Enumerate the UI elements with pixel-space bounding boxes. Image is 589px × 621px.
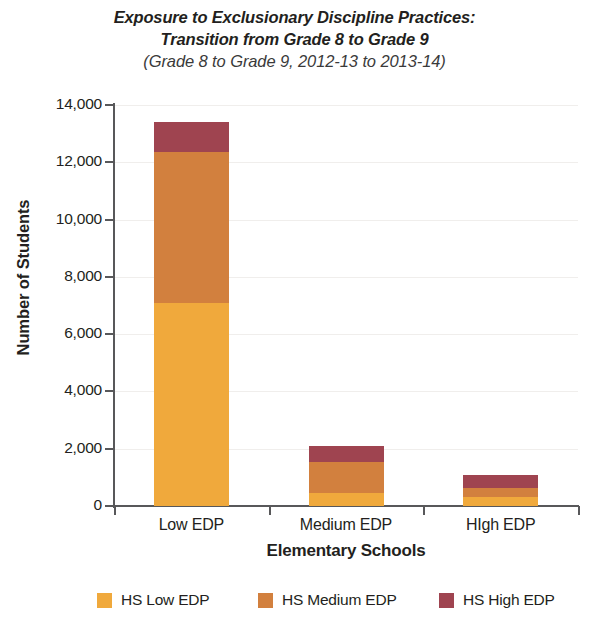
bar-segment[interactable] [463, 497, 538, 506]
legend-swatch-icon [439, 593, 454, 608]
x-axis-tick [269, 506, 271, 515]
y-axis-tick-label: 10,000 [28, 210, 102, 228]
legend-label: HS High EDP [463, 591, 555, 609]
x-axis-category-label: Medium EDP [269, 516, 424, 534]
y-axis-tick [105, 161, 114, 163]
legend-label: HS Medium EDP [282, 591, 397, 609]
y-axis-tick-label: 4,000 [28, 381, 102, 399]
bar-segment[interactable] [154, 303, 229, 506]
y-axis-tick-label: 2,000 [28, 439, 102, 457]
legend-item[interactable]: HS High EDP [439, 588, 555, 612]
bar-segment[interactable] [309, 446, 384, 462]
y-axis-tick-label: 14,000 [28, 95, 102, 113]
bar-segment[interactable] [463, 475, 538, 488]
chart-legend: HS Low EDPHS Medium EDPHS High EDP [0, 588, 589, 612]
bar-group[interactable] [463, 475, 538, 506]
y-axis-tick [105, 448, 114, 450]
bar-chart: 02,0004,0006,0008,00010,00012,00014,000 … [0, 0, 589, 621]
y-axis-tick [105, 390, 114, 392]
legend-item[interactable]: HS Low EDP [97, 588, 209, 612]
x-axis-tick [114, 506, 116, 515]
bar-group[interactable] [154, 122, 229, 506]
y-axis-tick [105, 104, 114, 106]
y-axis-tick-label: 8,000 [28, 267, 102, 285]
bar-segment[interactable] [463, 488, 538, 497]
y-axis-tick [105, 505, 114, 507]
plot-area [114, 105, 578, 506]
y-axis-title: Number of Students [14, 193, 33, 363]
y-axis-tick [105, 219, 114, 221]
bar-segment[interactable] [309, 462, 384, 493]
bar-segment[interactable] [154, 152, 229, 302]
bar-segment[interactable] [154, 122, 229, 152]
bar-group[interactable] [309, 446, 384, 506]
legend-label: HS Low EDP [121, 591, 209, 609]
y-axis-tick [105, 333, 114, 335]
x-axis-title: Elementary Schools [114, 541, 578, 561]
y-axis-tick-label: 0 [28, 496, 102, 514]
legend-item[interactable]: HS Medium EDP [258, 588, 397, 612]
y-axis-tick [105, 276, 114, 278]
legend-swatch-icon [97, 593, 112, 608]
bar-segment[interactable] [309, 493, 384, 506]
x-axis-category-label: Low EDP [114, 516, 269, 534]
y-axis-tick-label: 12,000 [28, 152, 102, 170]
y-axis-tick-label: 6,000 [28, 324, 102, 342]
x-axis-category-label: HIgh EDP [423, 516, 578, 534]
x-axis-tick [578, 506, 580, 515]
legend-swatch-icon [258, 593, 273, 608]
x-axis-tick [423, 506, 425, 515]
